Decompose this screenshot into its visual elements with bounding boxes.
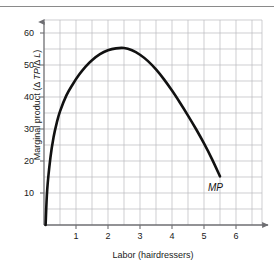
- xtick-label-2: 2: [101, 232, 115, 241]
- xtick-label-5: 5: [197, 232, 211, 241]
- figure-container: 60 50 40 30 20 10 1 2 3 4 5 6 Marginal p…: [0, 0, 274, 272]
- y-axis-title: Marginal product (Δ TP/Δ L): [32, 30, 42, 180]
- mp-curve-path: [46, 48, 220, 225]
- y-axis-title-prefix: Marginal product (Δ: [32, 80, 42, 161]
- grid-horizontal-lines: [44, 20, 262, 209]
- xtick-label-4: 4: [165, 232, 179, 241]
- x-axis-title: Labor (hairdressers): [44, 250, 262, 260]
- ytick-label-60: 60: [12, 29, 34, 38]
- xtick-label-1: 1: [69, 232, 83, 241]
- y-axis-title-l: L: [32, 53, 42, 58]
- grid-vertical-lines: [60, 20, 262, 225]
- xtick-label-6: 6: [229, 232, 243, 241]
- y-axis-title-middle: /Δ: [32, 58, 42, 69]
- y-axis-title-wrapper: Marginal product (Δ TP/Δ L): [10, 40, 24, 200]
- y-axis-title-suffix: ): [32, 50, 42, 53]
- xtick-label-3: 3: [133, 232, 147, 241]
- y-axis-title-tp: TP: [32, 68, 42, 80]
- mp-curve-label: MP: [208, 182, 223, 193]
